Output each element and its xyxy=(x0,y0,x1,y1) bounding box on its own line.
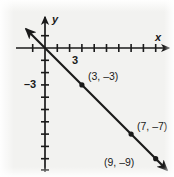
point-label-7-neg7: (7, –7) xyxy=(137,121,167,132)
x-tick-label-3: 3 xyxy=(72,55,78,66)
data-point-9-neg9 xyxy=(153,156,158,161)
graph-figure: y x 3 –3 (3, –3) (7, –7) (9, –9) xyxy=(0,0,174,177)
data-point-7-neg7 xyxy=(129,132,134,137)
point-label-9-neg9: (9, –9) xyxy=(104,157,134,168)
x-axis-label: x xyxy=(155,32,161,43)
y-axis xyxy=(41,17,49,172)
y-axis-label: y xyxy=(52,14,58,25)
x-axis xyxy=(16,44,169,52)
y-tick-label-neg3: –3 xyxy=(24,79,36,90)
line-graph xyxy=(26,29,167,170)
point-label-3-neg3: (3, –3) xyxy=(88,71,118,82)
data-point-3-neg3 xyxy=(79,82,84,87)
